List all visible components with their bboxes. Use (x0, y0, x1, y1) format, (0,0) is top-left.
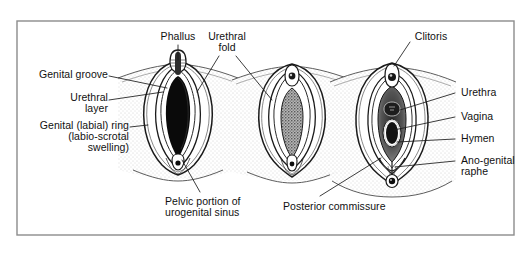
panel-female-stage (330, 63, 456, 197)
label-urethral-layer-line2: layer (12, 103, 108, 115)
label-hymen: Hymen (461, 133, 523, 145)
label-pelvic-portion-line2: urogenital sinus (165, 207, 275, 219)
label-urethral-fold-line2: fold (198, 42, 256, 54)
anatomical-figure: Genital groove Urethral layer Genital (l… (0, 0, 527, 258)
label-ano-genital-raphe-line2: raphe (461, 166, 525, 178)
label-clitoris: Clitoris (403, 31, 459, 43)
label-posterior-commissure: Posterior commissure (283, 201, 423, 213)
label-genital-ring-line3: swelling) (8, 142, 129, 154)
label-urethra: Urethra (461, 87, 523, 99)
label-genital-groove: Genital groove (12, 69, 108, 81)
label-vagina: Vagina (461, 111, 523, 123)
